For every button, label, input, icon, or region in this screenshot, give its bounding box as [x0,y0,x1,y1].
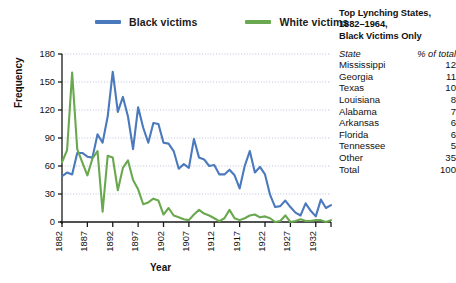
y-tick-label: 60 [45,161,55,171]
y-tick-label: 0 [50,217,55,227]
x-tick-label: 1897 [130,231,140,252]
table-row: Georgia11 [339,71,456,83]
table-cell-state: Tennessee [339,140,385,152]
table-cell-pct: 100 [434,164,456,176]
table-cell-state: Other [339,152,363,164]
x-tick-label: 1902 [156,231,166,252]
table-row: Tennessee5 [339,140,456,152]
table-cell-state: Louisiana [339,94,380,106]
table-cell-pct: 8 [434,94,456,106]
table-row: Louisiana8 [339,94,456,106]
x-tick-label: 1927 [282,231,292,252]
x-tick-label: 1907 [181,231,191,252]
table-cell-pct: 6 [434,117,456,129]
table-title-line-1: Top Lynching States, [339,8,456,19]
table-header-state: State [339,49,361,59]
table-title: Top Lynching States, 1882–1964, Black Vi… [339,8,456,42]
table-cell-state: Total [339,164,359,176]
y-tick-label: 150 [39,77,55,87]
table-row: Florida6 [339,129,456,141]
table-row: Other35 [339,152,456,164]
line-chart: 0306090120150180188218871892189719021907… [0,0,339,283]
table-cell-pct: 5 [434,140,456,152]
table-row: Mississippi12 [339,59,456,71]
table-title-line-2: 1882–1964, [339,19,456,30]
table-row: Alabama7 [339,106,456,118]
x-tick-label: 1882 [54,231,64,252]
table-header-row: State % of total [339,49,456,59]
table-row: Total100 [339,164,456,176]
table-cell-pct: 11 [434,71,456,83]
table-row: Arkansas6 [339,117,456,129]
table-cell-pct: 35 [434,152,456,164]
table-cell-pct: 7 [434,106,456,118]
table-cell-state: Arkansas [339,117,379,129]
table-cell-state: Alabama [339,106,377,118]
plot-area: Frequency Year 0306090120150180188218871… [0,0,339,283]
table-cell-state: Texas [339,82,364,94]
x-tick-label: 1922 [257,231,267,252]
table-body: Mississippi12Georgia11Texas10Louisiana8A… [339,59,456,175]
y-tick-label: 120 [39,105,55,115]
x-tick-label: 1917 [232,231,242,252]
series-line-black-victims [62,72,331,217]
table-cell-pct: 6 [434,129,456,141]
x-tick-label: 1932 [308,231,318,252]
x-tick-label: 1912 [206,231,216,252]
table-cell-pct: 10 [434,82,456,94]
chart-page: Black victims White victims Frequency Ye… [0,0,456,283]
table-cell-state: Mississippi [339,59,385,71]
table-cell-state: Georgia [339,71,373,83]
x-tick-label: 1892 [105,231,115,252]
table-row: Texas10 [339,82,456,94]
y-tick-label: 180 [39,49,55,59]
y-tick-label: 90 [45,133,55,143]
table-cell-pct: 12 [434,59,456,71]
top-states-table: Top Lynching States, 1882–1964, Black Vi… [339,8,456,175]
x-tick-label: 1887 [79,231,89,252]
table-header-pct: % of total [417,49,456,59]
y-tick-label: 30 [45,189,55,199]
table-title-line-3: Black Victims Only [339,31,456,42]
table-cell-state: Florida [339,129,368,141]
